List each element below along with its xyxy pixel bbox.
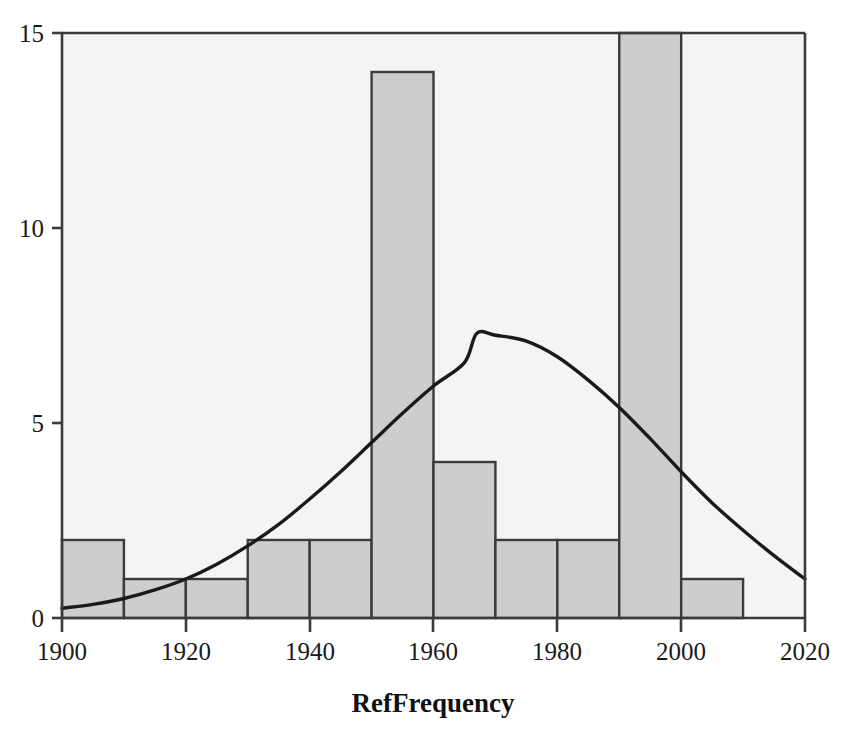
histogram-chart: 0 5 10 15 1900 1920 1940 1960 1980 2000 … [0,0,853,743]
x-tick-label-1920: 1920 [161,638,211,665]
x-axis-tick-labels: 1900 1920 1940 1960 1980 2000 2020 [37,638,830,665]
x-tick-label-1960: 1960 [408,638,458,665]
x-tick-label-2000: 2000 [656,638,706,665]
y-tick-label-10: 10 [19,215,44,242]
y-tick-label-0: 0 [32,605,45,632]
bar-1950-1960 [372,72,434,618]
bar-1920-1930 [186,579,248,618]
x-tick-label-2020: 2020 [780,638,830,665]
bar-1940-1950 [310,540,372,618]
bar-1930-1940 [248,540,310,618]
y-tick-label-5: 5 [32,410,45,437]
bar-1990-2000 [619,33,681,618]
y-tick-label-15: 15 [19,20,44,47]
y-axis-tick-labels: 0 5 10 15 [19,20,44,632]
x-axis-ticks [62,618,805,632]
bar-1910-1920 [124,579,186,618]
x-tick-label-1980: 1980 [532,638,582,665]
caption-fragment [0,726,853,743]
bar-1970-1980 [495,540,557,618]
bar-2000-2010 [681,579,743,618]
bar-1980-1990 [557,540,619,618]
x-tick-label-1900: 1900 [37,638,87,665]
histogram-figure: 0 5 10 15 1900 1920 1940 1960 1980 2000 … [0,0,853,743]
bar-1960-1970 [434,462,496,618]
x-tick-label-1940: 1940 [285,638,335,665]
y-axis-ticks [52,33,62,618]
x-axis-title: RefFrequency [352,688,515,718]
